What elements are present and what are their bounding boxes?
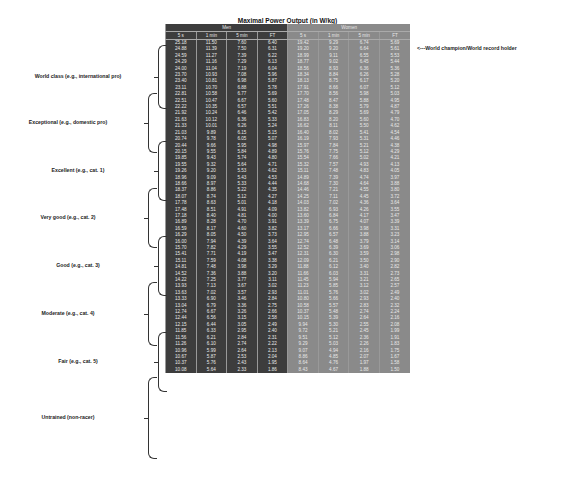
brace-icon (148, 93, 157, 153)
table-title: Maximal Power Output (in W/kg) (165, 17, 410, 24)
category-label: Moderate (e.g., cat. 4) (0, 310, 143, 316)
cell: 5.69 (379, 40, 410, 47)
cell: 1.86 (257, 367, 288, 373)
brace-icon (158, 141, 167, 201)
brace-icon (158, 45, 167, 109)
cell: 4.67 (318, 367, 349, 373)
col-header: FT (379, 32, 410, 40)
cell: 10.08 (166, 367, 197, 373)
category-label: World class (e.g., international pro) (3, 73, 153, 79)
cell: 2.33 (227, 367, 258, 373)
group-header-men: Men (166, 24, 288, 32)
cell: 6.74 (349, 40, 380, 47)
cell: 1.88 (349, 367, 380, 373)
category-label: Good (e.g., cat. 3) (3, 262, 153, 268)
brace-icon (158, 236, 167, 296)
group-header-women: Women (288, 24, 410, 32)
category-label: Untrained (non-racer) (0, 414, 143, 420)
cell: 8.43 (288, 367, 319, 373)
cell: 7.60 (227, 40, 258, 47)
col-header: 1 min (318, 32, 349, 40)
category-label: Exceptional (e.g., domestic pro) (0, 119, 143, 125)
table-row: 25.1811.507.606.4019.429.296.745.69 (166, 40, 411, 47)
world-record-annotation: <---World champion/World record holder (417, 45, 517, 51)
col-header: 5 min (349, 32, 380, 40)
cell: 19.42 (288, 40, 319, 47)
brace-icon (158, 332, 167, 392)
brace-icon (148, 188, 157, 248)
category-label: Excellent (e.g., cat. 1) (3, 167, 153, 173)
category-label: Fair (e.g., cat. 5) (3, 358, 153, 364)
col-header: 5 s (288, 32, 319, 40)
cell: 5.64 (196, 367, 227, 373)
cell: 25.18 (166, 40, 197, 47)
cell: 1.50 (379, 367, 410, 373)
col-header: FT (257, 32, 288, 40)
col-header: 5 s (166, 32, 197, 40)
table-row: 10.085.642.331.868.434.671.881.50 (166, 367, 411, 373)
brace-icon (148, 377, 157, 459)
col-header: 1 min (196, 32, 227, 40)
power-table: Men Women 5 s 1 min 5 min FT 5 s 1 min 5… (165, 24, 410, 373)
col-header: 5 min (227, 32, 258, 40)
category-label: Very good (e.g., cat. 2) (0, 214, 143, 220)
cell: 6.40 (257, 40, 288, 47)
cell: 11.50 (196, 40, 227, 47)
brace-icon (148, 282, 157, 346)
table-body: 25.1811.507.606.4019.429.296.745.6924.88… (166, 40, 411, 374)
cell: 9.29 (318, 40, 349, 47)
